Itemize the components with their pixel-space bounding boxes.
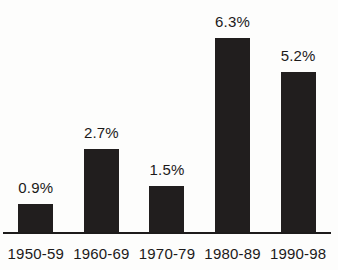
bar xyxy=(281,72,316,232)
bar-column: 0.9% xyxy=(3,0,69,232)
bar-column: 1.5% xyxy=(134,0,200,232)
bar xyxy=(84,149,119,232)
x-axis-tick-label: 1950-59 xyxy=(3,245,69,262)
bar xyxy=(149,186,184,232)
bar-value-label: 0.9% xyxy=(18,180,53,196)
x-axis-labels: 1950-591960-691970-791980-891990-98 xyxy=(3,245,331,262)
bar-column: 2.7% xyxy=(69,0,135,232)
bar xyxy=(215,38,250,232)
x-axis-tick-label: 1980-89 xyxy=(200,245,266,262)
bar-column: 5.2% xyxy=(265,0,331,232)
x-axis-tick-label: 1970-79 xyxy=(134,245,200,262)
bar-chart: 0.9%2.7%1.5%6.3%5.2% 1950-591960-691970-… xyxy=(0,0,338,270)
bar-value-label: 2.7% xyxy=(84,125,119,141)
bar-value-label: 6.3% xyxy=(215,14,250,30)
bar-value-label: 1.5% xyxy=(149,162,184,178)
bar xyxy=(18,204,53,232)
plot-area: 0.9%2.7%1.5%6.3%5.2% xyxy=(3,0,331,234)
bar-column: 6.3% xyxy=(200,0,266,232)
x-axis-tick-label: 1960-69 xyxy=(69,245,135,262)
bar-value-label: 5.2% xyxy=(281,48,316,64)
x-axis-tick-label: 1990-98 xyxy=(265,245,331,262)
